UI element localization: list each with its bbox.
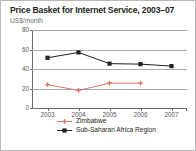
series-layer [32,30,187,108]
x-axis-end-tick [186,108,187,111]
data-point-zimbabwe [45,82,50,87]
y-tick-label: 40 [22,66,29,72]
chart-axis-unit-label: US$/month [10,17,43,24]
data-point-zimbabwe [76,88,81,93]
y-tick-mark [30,108,32,109]
data-point-sub-saharan-africa-region [169,64,173,68]
legend-square-marker-icon [57,126,72,135]
y-tick-label: 60 [22,46,29,52]
data-point-zimbabwe [107,81,112,86]
chart-title: Price Basket for Internet Service, 2003–… [10,5,174,15]
plot-area: 020406080 20032004200520062007 [32,30,187,108]
data-point-sub-saharan-africa-region [45,56,49,60]
legend-cross-marker-icon [57,117,72,126]
legend-item-sub-saharan-africa-region[interactable]: Sub-Saharan Africa Region [1,126,196,135]
data-point-sub-saharan-africa-region [76,50,80,54]
legend-label: Sub-Saharan Africa Region [76,127,156,134]
legend-label: Zimbabwe [76,118,106,125]
data-point-sub-saharan-africa-region [107,62,111,66]
data-point-zimbabwe [138,81,143,86]
y-tick-label: 20 [22,85,29,91]
chart-figure: Price Basket for Internet Service, 2003–… [0,0,196,151]
legend-item-zimbabwe[interactable]: Zimbabwe [1,117,196,126]
y-tick-label: 0 [25,105,29,111]
y-tick-label: 80 [22,27,29,33]
series-line-zimbabwe [48,83,141,90]
data-point-sub-saharan-africa-region [138,62,142,66]
chart-legend: ZimbabweSub-Saharan Africa Region [1,117,196,135]
